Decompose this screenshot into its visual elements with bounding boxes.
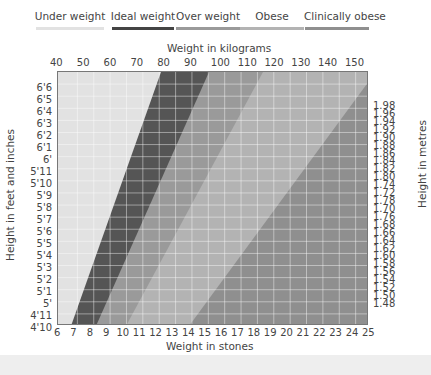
left-tick-label: 5': [22, 299, 52, 309]
left-tick-label: 5'9: [22, 191, 52, 201]
right-axis-title: Height in metres: [416, 114, 428, 214]
left-tick-label: 5'4: [22, 251, 52, 261]
left-tick-label: 5'2: [22, 275, 52, 285]
bottom-tick-label: 22: [313, 327, 326, 338]
legend-swatch-clinically-obese: [305, 27, 369, 30]
left-axis-title: Height in feet and inches: [4, 131, 16, 261]
legend-under-weight: Under weight: [34, 10, 106, 22]
plot-area: [57, 71, 368, 325]
left-tick-label: 6': [22, 155, 52, 165]
footer-decoration: [0, 355, 431, 375]
bmi-bands: [58, 72, 368, 325]
left-tick-label: 6'4: [22, 107, 52, 117]
bottom-tick-label: 19: [264, 327, 277, 338]
bottom-tick-label: 16: [215, 327, 228, 338]
legend-clinically-obese: Clinically obese: [304, 10, 370, 22]
bottom-tick-label: 23: [329, 327, 342, 338]
left-tick-label: 5'3: [22, 263, 52, 273]
left-tick-label: 5'1: [22, 287, 52, 297]
left-tick-label: 4'10: [22, 323, 52, 333]
bottom-tick-label: 14: [182, 327, 195, 338]
top-tick-label: 70: [130, 57, 143, 68]
top-tick-label: 140: [318, 57, 337, 68]
bottom-tick-label: 21: [297, 327, 310, 338]
top-tick-label: 120: [264, 57, 283, 68]
bottom-tick-label: 18: [247, 327, 260, 338]
legend-obese: Obese: [240, 10, 304, 22]
legend-swatch-under-weight: [36, 27, 104, 30]
legend-swatch-obese: [240, 27, 304, 30]
bottom-tick-label: 13: [166, 327, 179, 338]
left-tick-label: 6'1: [22, 143, 52, 153]
left-tick-label: 6'6: [22, 83, 52, 93]
left-tick-label: 5'8: [22, 203, 52, 213]
top-tick-label: 100: [211, 57, 230, 68]
top-tick-label: 150: [345, 57, 364, 68]
top-tick-label: 80: [157, 57, 170, 68]
left-tick-label: 4'11: [22, 311, 52, 321]
legend-swatch-over-weight: [176, 27, 240, 30]
top-axis-title: Weight in kilograms: [167, 42, 271, 54]
right-tick-label: 1.48: [373, 299, 395, 309]
left-tick-label: 6'3: [22, 119, 52, 129]
bottom-tick-label: 25: [362, 327, 375, 338]
legend-swatch-ideal-weight: [112, 27, 174, 30]
bottom-tick-label: 10: [116, 327, 129, 338]
left-tick-label: 5'6: [22, 227, 52, 237]
legend-over-weight: Over weight: [176, 10, 240, 22]
bottom-tick-label: 24: [346, 327, 359, 338]
legend-ideal-weight: Ideal weight: [110, 10, 176, 22]
top-tick-label: 60: [104, 57, 117, 68]
top-tick-label: 130: [291, 57, 310, 68]
top-tick-label: 50: [77, 57, 90, 68]
left-tick-label: 6'2: [22, 131, 52, 141]
bottom-tick-label: 17: [231, 327, 244, 338]
left-tick-label: 6'5: [22, 95, 52, 105]
left-tick-label: 5'11: [22, 167, 52, 177]
top-tick-label: 90: [184, 57, 197, 68]
bottom-tick-label: 11: [133, 327, 146, 338]
top-tick-label: 40: [50, 57, 63, 68]
bottom-tick-label: 7: [70, 327, 76, 338]
bottom-tick-label: 20: [280, 327, 293, 338]
bottom-tick-label: 12: [149, 327, 162, 338]
left-tick-label: 5'10: [22, 179, 52, 189]
bottom-tick-label: 8: [87, 327, 93, 338]
left-tick-label: 5'5: [22, 239, 52, 249]
bottom-tick-label: 15: [198, 327, 211, 338]
bottom-tick-label: 6: [54, 327, 60, 338]
left-tick-label: 5'7: [22, 215, 52, 225]
top-tick-label: 110: [238, 57, 257, 68]
bottom-tick-label: 9: [103, 327, 109, 338]
bottom-axis-title: Weight in stones: [166, 340, 253, 352]
